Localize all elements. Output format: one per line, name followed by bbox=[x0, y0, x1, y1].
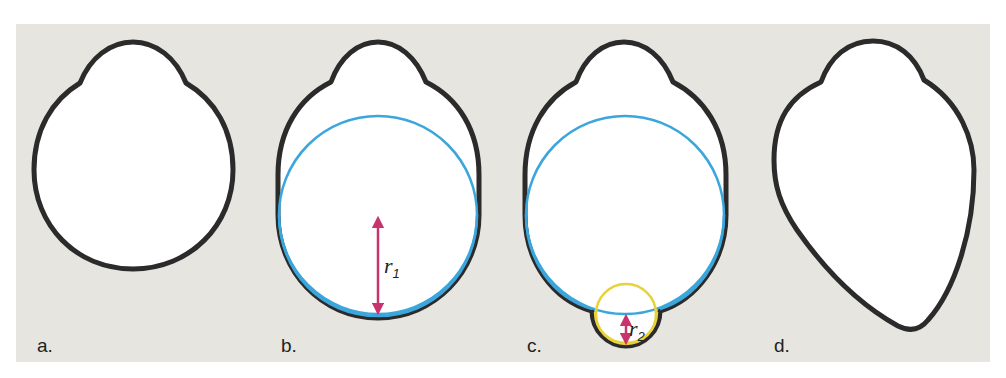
figure-canvas: a. r1 b. r2 c. d. bbox=[0, 0, 1006, 378]
panel-a-label: a. bbox=[37, 335, 53, 356]
panel-d-cell bbox=[774, 41, 974, 329]
panel-d-label: d. bbox=[774, 335, 790, 356]
panel-c-cell bbox=[525, 42, 726, 346]
panel-b-label: b. bbox=[281, 335, 297, 356]
panel-a-cell bbox=[34, 42, 233, 269]
figure-stage: a. r1 b. r2 c. d. bbox=[0, 0, 1006, 378]
panel-b-cell bbox=[278, 42, 479, 318]
panel-c-label: c. bbox=[527, 335, 542, 356]
